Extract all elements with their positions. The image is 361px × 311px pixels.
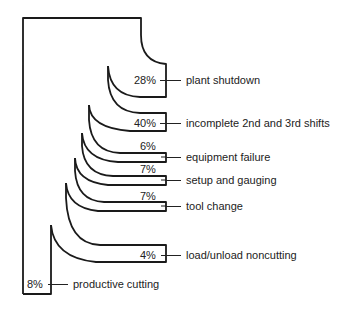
- flow-diagram: [0, 0, 361, 311]
- percent-plant-shutdown: 28%: [134, 74, 156, 86]
- label-setup-gauging: setup and gauging: [186, 174, 277, 186]
- percent-productive-cutting: 8%: [27, 278, 43, 290]
- leader-line: [166, 206, 181, 207]
- percent-tool-change: 7%: [140, 190, 156, 202]
- leader-line: [166, 180, 181, 181]
- leader-line: [166, 157, 181, 158]
- percent-equipment-failure: 6%: [140, 140, 156, 152]
- percent-incomplete-shifts: 40%: [134, 117, 156, 129]
- label-equipment-failure: equipment failure: [186, 151, 270, 163]
- leader-line: [161, 255, 181, 256]
- leader-line: [48, 284, 68, 285]
- label-tool-change: tool change: [186, 200, 243, 212]
- percent-load-unload: 4%: [140, 249, 156, 261]
- leader-line: [160, 80, 181, 81]
- label-productive-cutting: productive cutting: [73, 278, 159, 290]
- label-plant-shutdown: plant shutdown: [186, 74, 260, 86]
- label-load-unload: load/unload noncutting: [186, 249, 297, 261]
- percent-setup-gauging: 7%: [140, 163, 156, 175]
- leader-line: [160, 123, 181, 124]
- label-incomplete-shifts: incomplete 2nd and 3rd shifts: [186, 117, 330, 129]
